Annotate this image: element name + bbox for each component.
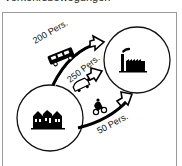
- bicycle-icon: [93, 98, 106, 114]
- flow-label-car: 200 Pers.: [31, 18, 69, 46]
- flow-diagram: 200 Pers. 250 Pers. 50 Pers.: [0, 0, 182, 166]
- flow-bicycle: 50 Pers.: [78, 92, 132, 136]
- car-icon: [47, 47, 76, 68]
- residential-node: [17, 85, 83, 151]
- workplace-node: [104, 27, 170, 93]
